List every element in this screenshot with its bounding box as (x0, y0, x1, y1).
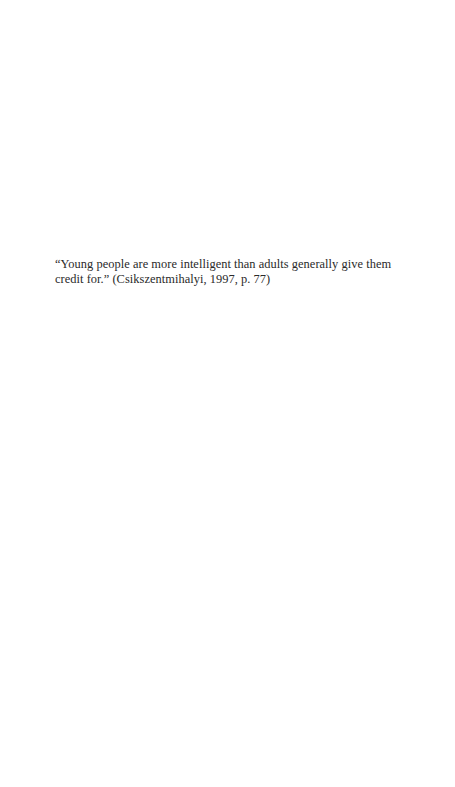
document-page: “Young people are more intelligent than … (0, 0, 455, 787)
quote-line-2: credit for.” (Csikszentmihalyi, 1997, p.… (55, 272, 400, 287)
quote-text-end: credit for.” (55, 272, 109, 286)
quote-line-1: “Young people are more intelligent than … (55, 257, 400, 272)
citation: (Csikszentmihalyi, 1997, p. 77) (109, 272, 270, 286)
epigraph-quote: “Young people are more intelligent than … (55, 257, 400, 287)
